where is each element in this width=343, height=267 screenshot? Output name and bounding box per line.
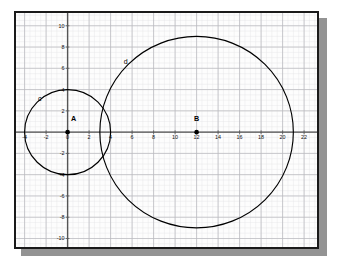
y-tick-label: -2 xyxy=(60,150,65,156)
y-tick-label: -10 xyxy=(57,235,65,241)
circle-label-d: d xyxy=(124,58,128,65)
x-tick-label: 20 xyxy=(280,134,286,140)
point-label-A: A xyxy=(71,114,76,123)
screenshot-root: -4-20246810121416182022-10-8-6-4-2246810… xyxy=(0,0,343,267)
x-tick-label: 16 xyxy=(237,134,243,140)
y-tick-label: 8 xyxy=(62,44,65,50)
x-tick-label: 8 xyxy=(152,134,155,140)
x-tick-label: -2 xyxy=(44,134,49,140)
plot-window[interactable]: -4-20246810121416182022-10-8-6-4-2246810… xyxy=(14,11,319,249)
point-label-B: B xyxy=(194,114,199,123)
x-tick-label: 22 xyxy=(301,134,307,140)
y-tick-label: -8 xyxy=(60,214,65,220)
plot-canvas[interactable]: -4-20246810121416182022-10-8-6-4-2246810… xyxy=(16,13,317,247)
x-tick-label: 14 xyxy=(215,134,221,140)
y-tick-label: 6 xyxy=(62,65,65,71)
y-tick-label: 2 xyxy=(62,108,65,114)
x-tick-label: 2 xyxy=(88,134,91,140)
x-tick-label: 6 xyxy=(131,134,134,140)
x-tick-label: 0 xyxy=(66,134,69,140)
graph-svg[interactable]: -4-20246810121416182022-10-8-6-4-2246810… xyxy=(16,13,317,247)
x-tick-label: 10 xyxy=(172,134,178,140)
circle-label-c: c xyxy=(38,95,42,102)
point-A[interactable] xyxy=(65,130,70,135)
point-B[interactable] xyxy=(194,130,199,135)
y-tick-label: 10 xyxy=(59,23,65,29)
y-tick-label: -6 xyxy=(60,193,65,199)
x-tick-label: 12 xyxy=(194,134,200,140)
x-tick-label: 18 xyxy=(258,134,264,140)
